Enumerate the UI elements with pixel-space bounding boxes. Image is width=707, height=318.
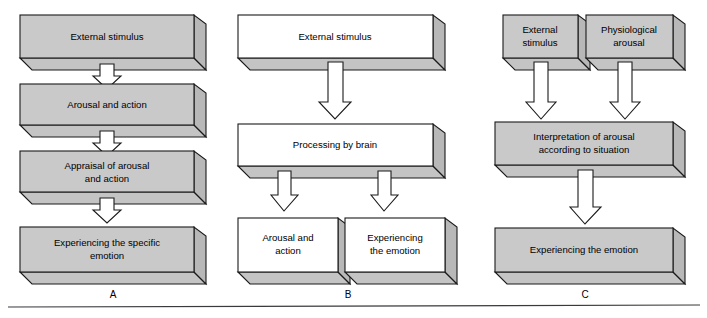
- node-b2-bottom-face: [238, 166, 445, 178]
- node-a4-label-line1: Experiencing the specific: [54, 237, 160, 248]
- node-a1-label-line1: External stimulus: [70, 31, 143, 42]
- panel-c-letter: C: [581, 289, 588, 300]
- bottom-divider-rule: [8, 305, 700, 307]
- node-b3-bottom-face: [238, 272, 350, 284]
- node-b4-label-line2: the emotion: [370, 245, 420, 256]
- node-a4-bottom-face: [20, 272, 206, 284]
- node-b2-label-line1: Processing by brain: [293, 139, 377, 150]
- panel-a-letter: A: [110, 289, 117, 300]
- node-c4-experiencing-the-emotion: Experiencing the emotion: [495, 228, 685, 284]
- node-b1-label-line1: External stimulus: [298, 31, 371, 42]
- node-b2-processing-by-brain: Processing by brain: [238, 124, 445, 178]
- panel-b: External stimulus Processing by brain Ar…: [238, 15, 457, 300]
- node-a1-external-stimulus: External stimulus: [20, 15, 206, 70]
- node-c2-label-line2: arousal: [613, 37, 644, 48]
- node-c3-interpretation-of-arousal: Interpretation of arousal according to s…: [495, 122, 685, 177]
- node-a3-label-line2: and action: [85, 173, 129, 184]
- panel-c: External stimulus Physiological arousal …: [495, 15, 685, 300]
- node-c1-label-line2: stimulus: [522, 37, 557, 48]
- node-c4-bottom-face: [495, 272, 685, 284]
- node-c3-label-line1: Interpretation of arousal: [533, 131, 634, 142]
- node-a3-label-line1: Appraisal of arousal: [65, 160, 150, 171]
- arrow-c3-to-c4: [570, 170, 601, 224]
- node-c2-bottom-face: [586, 58, 685, 70]
- node-a2-label-line1: Arousal and action: [67, 99, 146, 110]
- node-b3-arousal-and-action: Arousal and action: [238, 218, 350, 284]
- node-b4-label-line1: Experiencing: [367, 232, 422, 243]
- node-b3-label-line1: Arousal and: [262, 232, 313, 243]
- node-c3-label-line2: according to situation: [539, 144, 630, 155]
- node-a3-appraisal-of-arousal: Appraisal of arousal and action: [20, 151, 206, 204]
- node-c1-label-line1: External: [522, 24, 557, 35]
- diagram-stage: External stimulus Arousal and action App…: [0, 0, 707, 318]
- node-a2-arousal-and-action: Arousal and action: [20, 84, 206, 137]
- node-a4-label-line2: emotion: [90, 250, 124, 261]
- node-c2-label-line1: Physiological: [601, 24, 657, 35]
- node-a4-experiencing-specific-emotion: Experiencing the specific emotion: [20, 227, 206, 284]
- node-b3-label-line2: action: [275, 245, 301, 256]
- emotion-theories-flowchart: External stimulus Arousal and action App…: [0, 0, 707, 318]
- panel-b-letter: B: [345, 289, 352, 300]
- node-b4-side-face: [445, 218, 457, 284]
- node-c2-physiological-arousal: Physiological arousal: [586, 15, 685, 70]
- node-b4-experiencing-the-emotion: Experiencing the emotion: [345, 218, 457, 284]
- panel-a: External stimulus Arousal and action App…: [20, 15, 206, 300]
- node-a3-front-face: [20, 151, 194, 192]
- node-c4-label-line1: Experiencing the emotion: [530, 244, 638, 255]
- node-b4-bottom-face: [345, 272, 457, 284]
